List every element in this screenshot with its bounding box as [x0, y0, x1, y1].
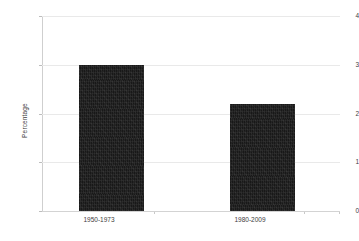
y-tick-mark-3: [39, 65, 42, 66]
x-axis-line: [42, 211, 340, 212]
bar-1980-2009: [230, 104, 295, 211]
x-tick-mark-2: [304, 212, 305, 214]
x-tick-mark-3: [339, 212, 340, 214]
gridline-4: [42, 16, 340, 17]
y-axis-title: Percentage: [17, 0, 31, 241]
y-tick-mark-1: [39, 162, 42, 163]
y-tick-label-3: 3: [331, 62, 359, 69]
y-tick-label-4: 4: [331, 13, 359, 20]
x-tick-mark-1: [154, 212, 155, 214]
y-tick-mark-4: [39, 16, 42, 17]
y-tick-mark-0: [39, 211, 42, 212]
x-tick-label-1980-2009: 1980-2009: [213, 217, 287, 224]
plot-area: [42, 16, 340, 211]
y-tick-label-0: 0: [331, 208, 359, 215]
bar-chart: Percentage 4 3 2 1 0 1950-1973 1980-2009: [0, 0, 359, 241]
y-tick-mark-2: [39, 114, 42, 115]
y-tick-label-1: 1: [331, 159, 359, 166]
x-tick-label-1950-1973: 1950-1973: [62, 217, 136, 224]
y-tick-label-2: 2: [331, 111, 359, 118]
bar-1950-1973: [79, 65, 144, 211]
